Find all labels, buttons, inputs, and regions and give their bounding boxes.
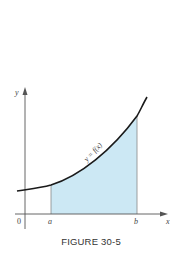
origin-label: 0 (17, 217, 21, 226)
y-axis-arrow-icon (23, 87, 28, 95)
area-under-curve-figure: y 0 a b x y = f(x) (0, 0, 182, 256)
y-axis-label: y (14, 88, 19, 97)
shaded-area (51, 116, 137, 214)
a-label: a (48, 217, 52, 226)
b-label: b (134, 217, 138, 226)
figure-caption: FIGURE 30-5 (0, 236, 182, 247)
x-axis-arrow-icon (160, 212, 168, 217)
x-axis-label: x (165, 217, 170, 226)
